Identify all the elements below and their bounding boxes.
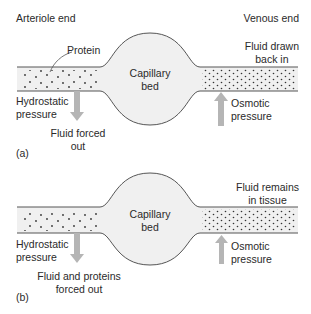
- panel-b-fluid-proteins-forced-out-label: Fluid and proteins forced out: [34, 270, 124, 296]
- venous-end-label: Venous end: [244, 12, 299, 25]
- protein-label: Protein: [67, 44, 100, 57]
- center-line2: bed: [120, 221, 180, 234]
- panel-b-hydrostatic-label: Hydrostatic pressure: [16, 238, 69, 264]
- arteriole-end-label: Arteriole end: [16, 12, 76, 25]
- panel-a-capillary-bed-label: Capillary bed: [120, 67, 180, 93]
- panel-a-osmotic-arrow: [214, 92, 228, 126]
- panel-a-hydrostatic-arrow: [70, 91, 84, 121]
- panel-a-fluid-drawn-back-label: Fluid drawn back in: [245, 40, 299, 66]
- line2: pressure: [231, 253, 272, 266]
- line1: Osmotic: [231, 97, 272, 110]
- line2: pressure: [231, 110, 272, 123]
- line1: Fluid drawn: [245, 40, 299, 53]
- panel-b-capillary-bed-label: Capillary bed: [120, 208, 180, 234]
- panel-a-osmotic-label: Osmotic pressure: [231, 97, 272, 123]
- center-line1: Capillary: [120, 67, 180, 80]
- panel-b-tag: (b): [16, 291, 29, 304]
- line1: Osmotic: [231, 240, 272, 253]
- line1: Hydrostatic: [16, 238, 69, 251]
- panel-b-fluid-remains-label: Fluid remains in tissue: [236, 181, 299, 207]
- line2: out: [45, 140, 111, 153]
- panel-b-hydrostatic-arrow: [70, 233, 84, 263]
- panel-a-tag: (a): [16, 147, 29, 160]
- center-line2: bed: [120, 80, 180, 93]
- panel-a-fluid-forced-out-label: Fluid forced out: [45, 127, 111, 153]
- line2: forced out: [34, 283, 124, 296]
- panel-b-osmotic-label: Osmotic pressure: [231, 240, 272, 266]
- line1: Fluid remains: [236, 181, 299, 194]
- line1: Fluid and proteins: [34, 270, 124, 283]
- line1: Fluid forced: [45, 127, 111, 140]
- line2: back in: [245, 53, 299, 66]
- panel-a-hydrostatic-label: Hydrostatic pressure: [16, 95, 69, 121]
- line1: Hydrostatic: [16, 95, 69, 108]
- line2: pressure: [16, 108, 69, 121]
- line2: in tissue: [236, 194, 299, 207]
- center-line1: Capillary: [120, 208, 180, 221]
- panel-b-osmotic-arrow: [215, 235, 228, 264]
- line2: pressure: [16, 251, 69, 264]
